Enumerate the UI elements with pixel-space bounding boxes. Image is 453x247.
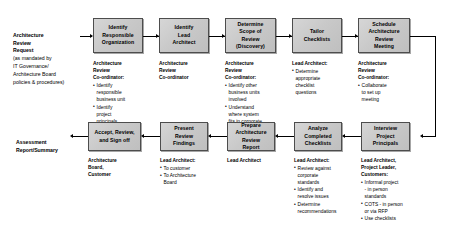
arrowhead-node6-in: [420, 134, 423, 138]
connector-node7-to-node8: [278, 136, 294, 137]
annotation-bullets: To customer To Architecture Board: [160, 165, 234, 187]
output-title: Assessment Report/Summary: [16, 139, 58, 153]
annotation-tailor-checklists: Lead Architect: Determine appropriate ch…: [292, 60, 366, 96]
annotation-bullet: To customer: [160, 165, 234, 172]
node-label: Schedule Architecture Review Meeting: [360, 21, 408, 51]
arrowhead-node9-in: [208, 134, 211, 138]
annotation-bullets: Determine appropriate checklist question…: [292, 68, 366, 97]
node-identify-responsible-organization[interactable]: Identify Responsible Organization: [93, 18, 143, 53]
annotation-bullet: COTS - in person or via RFP: [361, 201, 435, 215]
annotation-analyze-completed-checklists: Lead Architect: Review against corporate…: [294, 157, 368, 215]
arrowhead-node10-in: [141, 134, 144, 138]
node-schedule-architecture-review-meeting[interactable]: Schedule Architecture Review Meeting: [358, 18, 410, 53]
request-detail: (as mandated by IT Governance/ Architect…: [13, 55, 79, 86]
annotation-bullet: Determine recommendations: [294, 201, 368, 215]
annotation-role: Architecture Review Co-ordinator: [159, 60, 233, 81]
annotation-schedule-architecture-review-meeting: Architecture Review Co-ordinator: Collab…: [358, 60, 432, 104]
annotation-bullet: Collaborate to set up meeting: [358, 82, 432, 103]
annotation-role: Architecture Board, Customer: [88, 157, 162, 178]
connector-node9-to-node10: [144, 136, 160, 137]
node-analyze-completed-checklists[interactable]: Analyze Completed Checklists: [294, 122, 342, 151]
arrowhead-node7-in: [342, 134, 345, 138]
node-label: Accept, Review, and Sign off: [90, 129, 139, 144]
annotation-identify-responsible-organization: Architecture Review Co-ordinator: Identi…: [93, 60, 167, 125]
terminator-architecture-review-request: Architecture Review Request (as mandated…: [13, 24, 79, 94]
annotation-bullets: Collaborate to set up meeting: [358, 82, 432, 103]
annotation-bullet: To Architecture Board: [160, 172, 234, 186]
node-label: Determine Scope of Review (Discovery): [227, 21, 274, 51]
arrowhead-node8-in: [275, 134, 278, 138]
connector-node10-to-output: [73, 136, 88, 137]
annotation-accept-review-and-sign-off: Architecture Board, Customer: [88, 157, 162, 179]
annotation-bullets: Review against corporate standards Ident…: [294, 165, 368, 215]
connector-wrap-to-node6: [423, 136, 436, 137]
annotation-role: Architecture Review Co-ordinator:: [93, 60, 167, 81]
annotation-role: Lead Architect:: [292, 60, 366, 67]
annotation-bullet: Determine appropriate checklist question…: [292, 68, 366, 97]
annotation-bullet: Review against corporate standards: [294, 165, 368, 186]
annotation-bullet: Identify responsible business unit: [93, 82, 167, 103]
node-label: Prepare Architecture Review Report: [229, 122, 273, 152]
annotation-bullet: Identify and resolve issues: [294, 186, 368, 200]
terminator-assessment-report-summary: Assessment Report/Summary: [16, 131, 72, 154]
annotation-role: Lead Architect:: [294, 157, 368, 164]
node-interview-project-principals[interactable]: Interview Project Principals: [361, 122, 410, 151]
annotation-bullets: Identify responsible business unit Ident…: [93, 82, 167, 125]
annotation-prepare-architecture-review-report: Lead Architect: [227, 157, 301, 165]
connector-row1-to-row2-vertical: [435, 36, 436, 136]
annotation-role: Lead Architect:: [160, 157, 234, 164]
annotation-role: Lead Architect, Project Leader, Customer…: [361, 157, 435, 178]
annotation-interview-project-principals: Lead Architect, Project Leader, Customer…: [361, 157, 435, 222]
node-tailor-checklists[interactable]: Tailor Checklists: [292, 18, 342, 53]
node-present-review-findings[interactable]: Present Review Findings: [160, 122, 208, 151]
node-label: Tailor Checklists: [294, 28, 340, 43]
annotation-role: Architecture Review Co-ordinator:: [225, 60, 299, 81]
annotation-identify-lead-architect: Architecture Review Co-ordinator: [159, 60, 233, 82]
node-label: Identify Lead Architect: [161, 24, 207, 46]
connector-node6-to-node7: [345, 136, 361, 137]
node-prepare-architecture-review-report[interactable]: Prepare Architecture Review Report: [227, 122, 275, 151]
node-label: Present Review Findings: [162, 125, 206, 147]
connector-node5-to-wrap: [410, 36, 436, 37]
node-label: Identify Responsible Organization: [95, 24, 141, 46]
annotation-role: Architecture Review Co-ordinator:: [358, 60, 432, 81]
node-identify-lead-architect[interactable]: Identify Lead Architect: [159, 18, 209, 53]
connector-node8-to-node9: [211, 136, 227, 137]
annotation-bullet: Identify other business units involved: [225, 82, 299, 103]
annotation-bullets: Informal project - in person standards C…: [361, 179, 435, 222]
node-label: Interview Project Principals: [363, 125, 408, 147]
node-accept-review-and-sign-off[interactable]: Accept, Review, and Sign off: [88, 122, 141, 151]
annotation-bullet: Use checklists: [361, 215, 435, 222]
annotation-role: Lead Architect: [227, 157, 301, 164]
request-title: Architecture Review Request: [13, 32, 44, 54]
annotation-present-review-findings: Lead Architect: To customer To Architect…: [160, 157, 234, 187]
node-label: Analyze Completed Checklists: [296, 125, 340, 147]
annotation-bullet: Informal project - in person standards: [361, 179, 435, 200]
node-determine-scope-of-review[interactable]: Determine Scope of Review (Discovery): [225, 18, 276, 53]
flowchart-canvas: Architecture Review Request (as mandated…: [0, 0, 453, 247]
